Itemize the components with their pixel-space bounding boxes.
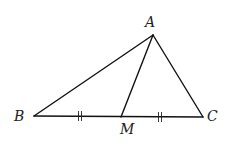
triangle-diagram: A B C M [0,0,228,147]
label-c: C [207,108,218,124]
segment-ab [34,35,153,116]
segment-am-median [121,35,153,117]
label-a: A [143,14,155,30]
segment-ac [153,35,203,117]
segment-bc [34,116,203,117]
label-m: M [119,121,135,137]
label-b: B [13,108,24,124]
